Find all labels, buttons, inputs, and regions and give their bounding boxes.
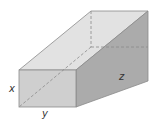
- label-x: x: [8, 83, 15, 94]
- front-face: [19, 70, 76, 107]
- label-y: y: [41, 108, 49, 119]
- rectangular-prism-diagram: x y z: [0, 0, 153, 119]
- label-z: z: [118, 71, 125, 82]
